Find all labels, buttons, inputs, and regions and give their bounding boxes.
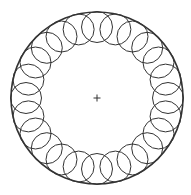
ring-circle bbox=[100, 14, 131, 45]
ring-circle bbox=[13, 64, 44, 95]
ring-circle bbox=[150, 64, 181, 95]
ring-of-circles-diagram bbox=[0, 0, 191, 195]
center-cross-icon bbox=[94, 95, 101, 102]
ring-circle bbox=[150, 101, 181, 132]
ring-circle bbox=[63, 151, 94, 182]
